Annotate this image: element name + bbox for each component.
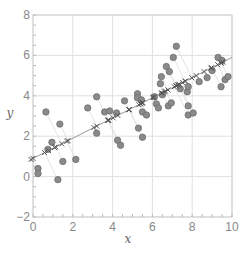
y-tick-label: −2 xyxy=(16,210,30,224)
x-axis-label: x xyxy=(125,232,132,246)
data-point xyxy=(168,100,174,106)
projection-line xyxy=(97,97,109,120)
data-point xyxy=(117,142,123,148)
data-point xyxy=(93,130,99,136)
x-tick-label: 2 xyxy=(69,220,76,234)
data-point xyxy=(196,78,202,84)
data-point xyxy=(49,139,55,145)
data-point xyxy=(85,105,91,111)
data-point xyxy=(173,43,179,49)
x-tick-label: 6 xyxy=(149,220,156,234)
x-tick-label: 10 xyxy=(225,220,239,234)
data-point xyxy=(185,84,191,90)
y-tick-label: 2 xyxy=(23,129,30,143)
data-point xyxy=(73,156,79,162)
data-point xyxy=(218,84,224,90)
x-tick-label: 0 xyxy=(30,220,37,234)
data-point xyxy=(155,105,161,111)
y-tick-label: 0 xyxy=(23,170,30,184)
projection-marker-icon xyxy=(126,107,131,112)
y-axis-label: y xyxy=(6,106,14,120)
data-point xyxy=(121,98,127,104)
data-point xyxy=(143,112,149,118)
data-point xyxy=(43,109,49,115)
y-tick-label: 8 xyxy=(23,8,30,22)
data-point xyxy=(135,125,141,131)
data-point xyxy=(157,80,163,86)
x-tick-label: 8 xyxy=(189,220,196,234)
data-point xyxy=(113,110,119,116)
data-point xyxy=(166,68,172,74)
data-point xyxy=(170,54,176,60)
data-point xyxy=(55,176,61,182)
data-point xyxy=(60,158,66,164)
tick-labels: 0246810−202468 xyxy=(16,8,239,234)
projection-line xyxy=(45,153,58,180)
projection-line xyxy=(176,46,192,78)
y-tick-label: 6 xyxy=(23,48,30,62)
data-point xyxy=(139,134,145,140)
projection-marker-icon xyxy=(59,141,64,146)
projection-marker-icon xyxy=(202,69,207,74)
data-points xyxy=(35,43,231,183)
data-point xyxy=(106,108,112,114)
data-point xyxy=(204,74,210,80)
data-point xyxy=(35,170,41,176)
data-point xyxy=(190,110,196,116)
projection-line xyxy=(46,112,62,144)
data-point xyxy=(93,94,99,100)
data-point xyxy=(158,73,164,79)
data-point xyxy=(57,121,63,127)
y-tick-label: 4 xyxy=(23,89,30,103)
x-tick-label: 4 xyxy=(109,220,116,234)
data-point xyxy=(185,103,191,109)
data-point xyxy=(225,73,231,79)
scatter-chart: 0246810−202468 x y xyxy=(0,0,244,255)
